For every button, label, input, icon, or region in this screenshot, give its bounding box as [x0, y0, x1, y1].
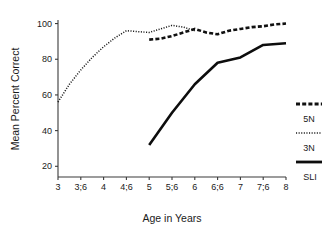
y-tick-label: 40 [42, 126, 52, 136]
x-tick-label: 5;6 [166, 182, 179, 192]
figure-container: 20406080100 33;644;655;666;677;68 Mean P… [0, 0, 336, 238]
x-axis-title: Age in Years [143, 212, 202, 224]
y-tick-label: 20 [42, 161, 52, 171]
legend: 5N 3N SLI [296, 104, 322, 182]
line-chart: 20406080100 33;644;655;666;677;68 Mean P… [0, 0, 336, 238]
x-axis-tick-labels: 33;644;655;666;677;68 [55, 182, 288, 192]
x-tick-label: 6 [192, 182, 197, 192]
legend-item-label-sli: SLI [303, 172, 317, 182]
x-tick-label: 4 [101, 182, 106, 192]
series-line-sli [149, 43, 286, 145]
y-tick-label: 60 [42, 90, 52, 100]
legend-item-label-5n: 5N [303, 114, 315, 124]
x-tick-label: 5 [147, 182, 152, 192]
y-axis-title: Mean Percent Correct [9, 48, 21, 151]
series-line-5n [149, 24, 286, 40]
x-tick-label: 7 [238, 182, 243, 192]
y-tick-label: 100 [37, 19, 52, 29]
legend-item-label-3n: 3N [303, 143, 315, 153]
y-axis-tick-labels: 20406080100 [37, 19, 52, 172]
x-tick-label: 8 [283, 182, 288, 192]
series-line-3n [58, 25, 195, 102]
y-tick-label: 80 [42, 54, 52, 64]
x-tick-label: 3 [55, 182, 60, 192]
x-tick-label: 6;6 [211, 182, 224, 192]
x-tick-label: 3;6 [75, 182, 88, 192]
x-tick-label: 4;6 [120, 182, 133, 192]
x-tick-label: 7;6 [257, 182, 270, 192]
